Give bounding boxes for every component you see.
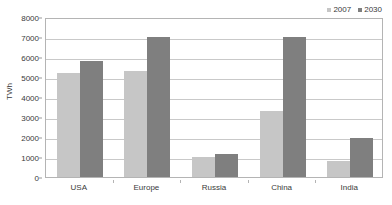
legend-entry[interactable]: 2030 [358, 5, 382, 14]
bar [327, 161, 350, 177]
bar [283, 37, 306, 177]
bar [192, 157, 215, 177]
x-tick-label: Russia [202, 183, 226, 192]
x-tick-mark [113, 180, 114, 183]
bar [215, 154, 238, 177]
bar-group [124, 19, 170, 177]
bar-chart: TWh 010002000300040005000600070008000 US… [0, 0, 392, 205]
bar-group [260, 19, 306, 177]
y-tick-label: 4000 [21, 94, 39, 103]
x-tick-mark [180, 180, 181, 183]
bar [80, 61, 103, 177]
y-axis-tick-labels: 010002000300040005000600070008000 [16, 18, 42, 178]
bar-group [192, 19, 238, 177]
legend-label: 2030 [364, 5, 382, 14]
y-tick-label: 3000 [21, 114, 39, 123]
y-tick-mark [39, 18, 42, 19]
bar [350, 138, 373, 177]
y-tick-label: 6000 [21, 54, 39, 63]
x-tick-mark [248, 180, 249, 183]
bar-group [57, 19, 103, 177]
y-tick-label: 5000 [21, 74, 39, 83]
y-tick-mark [39, 118, 42, 119]
x-tick-mark [315, 180, 316, 183]
x-tick-label: Europe [133, 183, 159, 192]
legend-swatch-icon [358, 8, 362, 12]
y-tick-label: 2000 [21, 134, 39, 143]
x-tick-label: India [341, 183, 358, 192]
y-axis-title-label: TWh [5, 83, 14, 100]
bar-group [327, 19, 373, 177]
bars-layer [46, 19, 382, 177]
y-tick-mark [39, 138, 42, 139]
y-tick-label: 8000 [21, 14, 39, 23]
bar [57, 73, 80, 177]
y-tick-mark [39, 158, 42, 159]
y-tick-mark [39, 178, 42, 179]
y-tick-mark [39, 78, 42, 79]
plot-area [45, 18, 383, 178]
x-axis-tick-labels: USAEuropeRussiaChinaIndia [45, 180, 383, 200]
y-tick-label: 1000 [21, 154, 39, 163]
legend-label: 2007 [333, 5, 351, 14]
bar [147, 37, 170, 177]
x-tick-label: China [271, 183, 292, 192]
bar [124, 71, 147, 177]
legend-entry[interactable]: 2007 [327, 5, 351, 14]
y-axis-title: TWh [2, 0, 16, 182]
y-tick-label: 7000 [21, 34, 39, 43]
legend-swatch-icon [327, 8, 331, 12]
x-tick-label: USA [71, 183, 87, 192]
bar [260, 111, 283, 177]
y-tick-mark [39, 38, 42, 39]
y-tick-mark [39, 58, 42, 59]
chart-legend: 20072030 [327, 5, 382, 14]
y-tick-mark [39, 98, 42, 99]
